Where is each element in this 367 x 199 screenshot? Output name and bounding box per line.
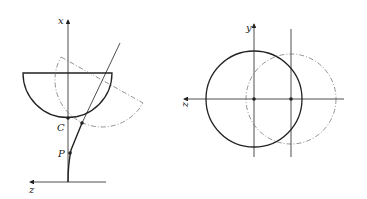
point-contact — [80, 121, 84, 125]
center-point-dashed — [289, 97, 293, 101]
diagram-canvas: x z C P y z — [0, 0, 367, 199]
left-diagram: x z C P — [23, 15, 143, 195]
point-p — [68, 151, 72, 155]
right-diagram: y z — [181, 22, 344, 157]
y-axis-label: y — [245, 22, 252, 33]
slanted-line — [82, 43, 120, 123]
center-point-solid — [252, 97, 256, 101]
z-axis-right-label: z — [181, 101, 192, 108]
semicircle-solid — [23, 73, 112, 118]
point-c-label: C — [57, 122, 65, 133]
x-axis-label: x — [58, 15, 64, 26]
point-c — [66, 116, 70, 120]
z-axis-label: z — [28, 184, 35, 195]
point-p-label: P — [57, 148, 65, 159]
